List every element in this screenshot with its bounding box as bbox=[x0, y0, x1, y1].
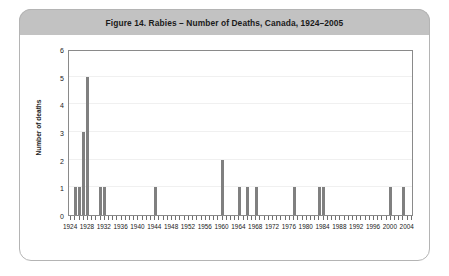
x-axis-tick-label: 1932 bbox=[97, 223, 111, 230]
x-axis-tick-label: 1968 bbox=[248, 223, 262, 230]
x-axis-tick bbox=[331, 216, 332, 220]
x-axis-tick bbox=[171, 216, 172, 220]
x-axis-tick bbox=[348, 216, 349, 220]
gridline bbox=[69, 159, 412, 160]
x-axis-tick bbox=[369, 216, 370, 220]
x-axis-tick bbox=[310, 216, 311, 220]
x-axis-tick-label: 1940 bbox=[130, 223, 144, 230]
x-axis-tick bbox=[335, 216, 336, 220]
x-axis-tick-label: 1952 bbox=[181, 223, 195, 230]
x-axis-tick bbox=[285, 216, 286, 220]
x-axis-tick bbox=[280, 216, 281, 220]
x-axis-tick bbox=[276, 216, 277, 220]
x-axis-tick bbox=[121, 216, 122, 220]
figure-card: Figure 14. Rabies – Number of Deaths, Ca… bbox=[19, 9, 430, 261]
x-axis-tick bbox=[175, 216, 176, 220]
bar bbox=[86, 77, 89, 215]
y-axis-tick-label: 3 bbox=[46, 130, 64, 137]
y-axis-tick-label: 6 bbox=[46, 47, 64, 54]
bar bbox=[154, 187, 157, 215]
x-axis-tick bbox=[272, 216, 273, 220]
x-axis-tick bbox=[243, 216, 244, 220]
plot-frame bbox=[68, 50, 413, 216]
x-axis-ticks bbox=[68, 216, 413, 221]
x-axis-tick bbox=[205, 216, 206, 220]
gridline bbox=[69, 76, 412, 77]
bar bbox=[402, 187, 405, 215]
x-axis-tick-label: 1960 bbox=[214, 223, 228, 230]
x-axis-tick bbox=[230, 216, 231, 220]
x-axis-tick bbox=[104, 216, 105, 220]
x-axis-tick-label: 1972 bbox=[265, 223, 279, 230]
x-axis-tick bbox=[238, 216, 239, 220]
bar bbox=[389, 187, 392, 215]
x-axis-tick bbox=[289, 216, 290, 220]
x-axis-tick bbox=[70, 216, 71, 220]
figure-title: Figure 14. Rabies – Number of Deaths, Ca… bbox=[106, 18, 344, 28]
x-axis-tick-label: 2004 bbox=[400, 223, 414, 230]
x-axis-tick bbox=[83, 216, 84, 220]
x-axis-tick bbox=[100, 216, 101, 220]
x-axis-tick bbox=[179, 216, 180, 220]
x-axis-tick-label: 1948 bbox=[164, 223, 178, 230]
x-axis-tick-label: 1944 bbox=[147, 223, 161, 230]
x-axis-tick-labels: 1924192819321936194019441948195219561960… bbox=[68, 223, 413, 235]
bar bbox=[74, 187, 77, 215]
x-axis-tick bbox=[297, 216, 298, 220]
x-axis-tick bbox=[125, 216, 126, 220]
x-axis-tick bbox=[264, 216, 265, 220]
bar bbox=[221, 160, 224, 215]
gridline bbox=[69, 131, 412, 132]
x-axis-tick bbox=[360, 216, 361, 220]
y-axis-tick-label: 0 bbox=[46, 213, 64, 220]
chart-plot-area: Number of deaths 0123456 192419281932193… bbox=[20, 36, 429, 260]
x-axis-tick bbox=[213, 216, 214, 220]
x-axis-tick-label: 1924 bbox=[63, 223, 77, 230]
bar bbox=[293, 187, 296, 215]
x-axis-tick bbox=[167, 216, 168, 220]
x-axis-tick bbox=[407, 216, 408, 220]
x-axis-tick bbox=[318, 216, 319, 220]
x-axis-tick bbox=[268, 216, 269, 220]
x-axis-tick bbox=[116, 216, 117, 220]
x-axis-tick bbox=[163, 216, 164, 220]
x-axis-tick-label: 1988 bbox=[332, 223, 346, 230]
y-axis-tick-label: 2 bbox=[46, 157, 64, 164]
x-axis-tick bbox=[306, 216, 307, 220]
y-axis-tick-label: 1 bbox=[46, 185, 64, 192]
x-axis-tick bbox=[192, 216, 193, 220]
x-axis-tick bbox=[142, 216, 143, 220]
bar bbox=[82, 132, 85, 215]
x-axis-tick bbox=[234, 216, 235, 220]
x-axis-tick bbox=[356, 216, 357, 220]
x-axis-tick bbox=[188, 216, 189, 220]
x-axis-tick bbox=[217, 216, 218, 220]
x-axis-tick-label: 1984 bbox=[315, 223, 329, 230]
x-axis-tick bbox=[222, 216, 223, 220]
x-axis-tick bbox=[259, 216, 260, 220]
bar bbox=[238, 187, 241, 215]
x-axis-tick bbox=[74, 216, 75, 220]
bar bbox=[322, 187, 325, 215]
bar bbox=[78, 187, 81, 215]
x-axis-tick-label: 1996 bbox=[366, 223, 380, 230]
x-axis-tick bbox=[91, 216, 92, 220]
y-axis-tick-label: 4 bbox=[46, 102, 64, 109]
x-axis-tick bbox=[323, 216, 324, 220]
y-axis-title: Number of deaths bbox=[35, 88, 42, 168]
x-axis-tick bbox=[293, 216, 294, 220]
x-axis-tick-label: 1992 bbox=[349, 223, 363, 230]
x-axis-tick bbox=[158, 216, 159, 220]
x-axis-tick bbox=[146, 216, 147, 220]
y-axis-tick-labels: 0123456 bbox=[44, 36, 64, 236]
x-axis-tick bbox=[137, 216, 138, 220]
x-axis-tick-label: 1964 bbox=[231, 223, 245, 230]
x-axis-tick bbox=[302, 216, 303, 220]
x-axis-tick bbox=[133, 216, 134, 220]
x-axis-tick bbox=[226, 216, 227, 220]
x-axis-tick bbox=[95, 216, 96, 220]
x-axis-tick bbox=[398, 216, 399, 220]
x-axis-tick bbox=[352, 216, 353, 220]
x-axis-tick bbox=[394, 216, 395, 220]
x-axis-tick bbox=[339, 216, 340, 220]
